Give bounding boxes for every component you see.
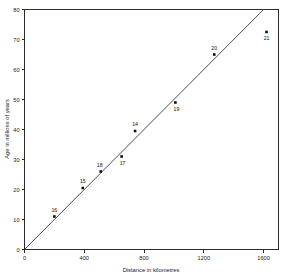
- y-tick-label: 50: [13, 97, 19, 103]
- data-point-marker: [99, 170, 102, 173]
- y-tick-label: 60: [13, 67, 19, 73]
- x-tick-label: 0: [23, 255, 26, 261]
- plot-canvas: 01020304050607080 040080012001600 161518…: [0, 0, 286, 278]
- data-point-marker: [265, 31, 268, 34]
- data-point-label: 15: [80, 178, 86, 184]
- data-point-marker: [53, 215, 56, 218]
- data-point-label: 18: [97, 162, 103, 168]
- y-axis-ticks: 01020304050607080: [13, 7, 24, 253]
- data-point-marker: [81, 187, 84, 190]
- data-point-label: 16: [51, 207, 57, 213]
- y-tick-label: 0: [16, 247, 19, 253]
- y-tick-label: 10: [13, 217, 19, 223]
- data-point-marker: [120, 155, 123, 158]
- y-tick-label: 30: [13, 157, 19, 163]
- data-point-label: 17: [120, 160, 126, 166]
- plot-frame: [25, 10, 279, 250]
- y-tick-label: 80: [13, 7, 19, 13]
- y-tick-label: 20: [13, 187, 19, 193]
- x-tick-label: 1600: [257, 255, 269, 261]
- y-axis-title: Age in millions of years: [4, 99, 10, 159]
- y-tick-label: 70: [13, 37, 19, 43]
- scatter-chart-figure: 01020304050607080 040080012001600 161518…: [0, 0, 286, 278]
- y-tick-label: 40: [13, 127, 19, 133]
- data-point-label: 19: [174, 106, 180, 112]
- x-axis-title: Distance in kilometres: [123, 267, 180, 273]
- data-point-marker: [174, 101, 177, 104]
- line-of-best-fit: [25, 10, 264, 250]
- x-tick-label: 400: [80, 255, 89, 261]
- x-tick-label: 1200: [198, 255, 210, 261]
- data-point-label: 14: [132, 121, 138, 127]
- data-point-label: 21: [264, 35, 270, 41]
- data-point-label: 20: [211, 45, 217, 51]
- x-axis-ticks: 040080012001600: [23, 250, 270, 261]
- x-tick-label: 800: [139, 255, 148, 261]
- data-point-marker: [213, 53, 216, 56]
- data-point-marker: [134, 130, 137, 133]
